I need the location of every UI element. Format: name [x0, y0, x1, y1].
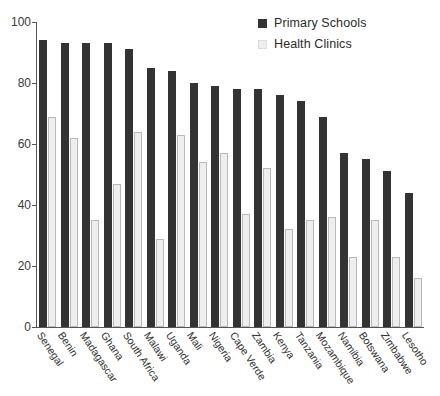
bar-primary-schools	[39, 40, 47, 327]
bar-group	[403, 22, 425, 327]
bar-health-clinics	[134, 132, 142, 327]
bar-group	[295, 22, 317, 327]
bar-group	[102, 22, 124, 327]
bar-group	[123, 22, 145, 327]
y-tick-mark	[32, 266, 36, 267]
x-axis-label: Mali	[186, 330, 205, 352]
bar-primary-schools	[405, 193, 413, 327]
bar-group	[209, 22, 231, 327]
bar-primary-schools	[319, 117, 327, 327]
y-tick-mark	[32, 327, 36, 328]
bar-health-clinics	[349, 257, 357, 327]
bar-primary-schools	[168, 71, 176, 327]
y-tick-mark	[32, 83, 36, 84]
bar-health-clinics	[414, 278, 422, 327]
bar-group	[274, 22, 296, 327]
bar-series-container	[37, 22, 424, 327]
bar-group	[188, 22, 210, 327]
y-tick-mark	[32, 144, 36, 145]
bar-primary-schools	[82, 43, 90, 327]
y-tick-label: 0	[24, 321, 31, 333]
bar-health-clinics	[113, 184, 121, 327]
bar-group	[145, 22, 167, 327]
bar-primary-schools	[340, 153, 348, 327]
bar-primary-schools	[362, 159, 370, 327]
bar-primary-schools	[276, 95, 284, 327]
bar-health-clinics	[91, 220, 99, 327]
y-tick-label: 20	[18, 260, 31, 272]
bar-health-clinics	[242, 214, 250, 327]
bar-group	[59, 22, 81, 327]
bar-primary-schools	[61, 43, 69, 327]
bar-health-clinics	[177, 135, 185, 327]
bar-health-clinics	[220, 153, 228, 327]
x-axis-line	[36, 327, 424, 328]
bar-health-clinics	[285, 229, 293, 327]
bar-group	[37, 22, 59, 327]
bar-primary-schools	[125, 49, 133, 327]
x-axis-labels: SenegalBeninMadagascarGhanaSouth AfricaM…	[37, 330, 424, 396]
bar-health-clinics	[328, 217, 336, 327]
bar-group	[80, 22, 102, 327]
bar-health-clinics	[70, 138, 78, 327]
y-tick-mark	[32, 205, 36, 206]
bar-health-clinics	[199, 162, 207, 327]
plot-area: 020406080100	[36, 22, 424, 327]
y-tick-label: 40	[18, 199, 31, 211]
y-tick-mark	[32, 22, 36, 23]
bar-group	[252, 22, 274, 327]
bar-group	[166, 22, 188, 327]
bar-group	[381, 22, 403, 327]
bar-health-clinics	[392, 257, 400, 327]
y-tick-label: 100	[11, 16, 31, 28]
bar-group	[360, 22, 382, 327]
bar-health-clinics	[156, 239, 164, 327]
bar-group	[338, 22, 360, 327]
bar-primary-schools	[104, 43, 112, 327]
bar-primary-schools	[211, 86, 219, 327]
bar-health-clinics	[371, 220, 379, 327]
y-tick-label: 80	[18, 77, 31, 89]
bar-group	[317, 22, 339, 327]
bar-health-clinics	[306, 220, 314, 327]
bar-primary-schools	[190, 83, 198, 327]
bar-health-clinics	[48, 117, 56, 327]
bar-primary-schools	[233, 89, 241, 327]
bar-primary-schools	[254, 89, 262, 327]
bar-primary-schools	[297, 101, 305, 327]
bar-primary-schools	[383, 171, 391, 327]
bar-group	[231, 22, 253, 327]
bar-primary-schools	[147, 68, 155, 327]
y-tick-label: 60	[18, 138, 31, 150]
bar-health-clinics	[263, 168, 271, 327]
bar-chart: Primary Schools Health Clinics 020406080…	[0, 0, 440, 396]
